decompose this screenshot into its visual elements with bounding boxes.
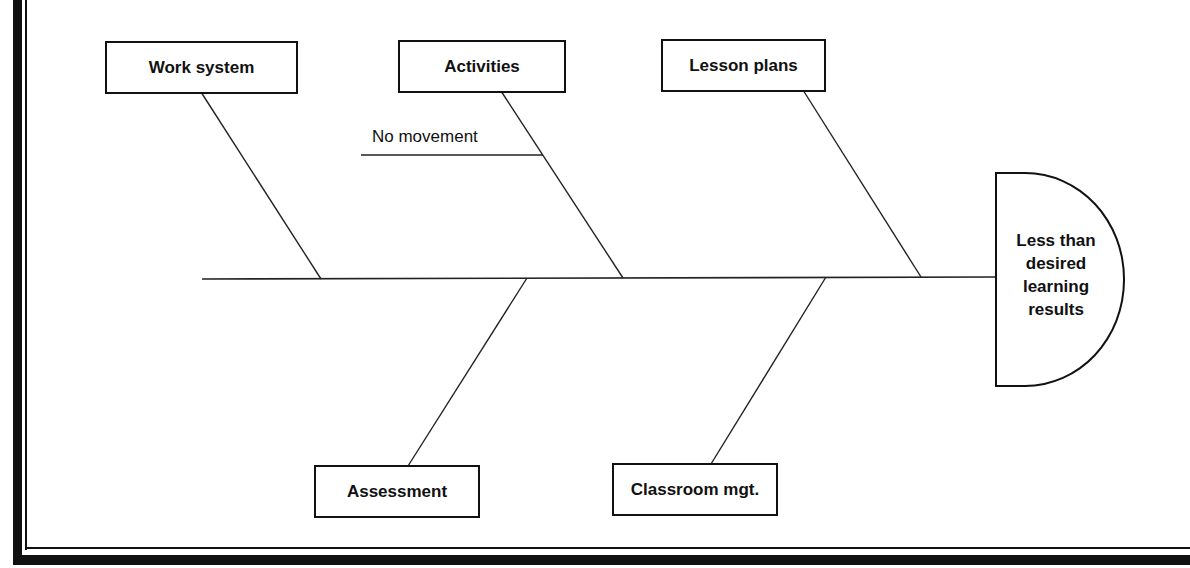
cause-label: Assessment [347,482,447,502]
bone-assessment [408,278,527,466]
cause-label: Classroom mgt. [631,480,759,500]
bone-activities [501,91,623,278]
cause-label: Lesson plans [689,56,798,76]
bone-lesson-plans [803,90,921,277]
effect-label: Less than desired learning results [1006,229,1106,321]
cause-box-activities: Activities [398,40,566,93]
cause-label: Activities [444,57,520,77]
cause-label: Work system [149,58,255,78]
bone-work-system [201,92,321,279]
bone-classroom-mgt [711,277,826,464]
cause-box-lesson-plans: Lesson plans [661,39,826,92]
cause-box-work-system: Work system [105,41,298,94]
sub-cause-label: No movement [372,127,478,147]
cause-box-assessment: Assessment [314,465,480,518]
cause-box-classroom-mgt: Classroom mgt. [612,463,778,516]
